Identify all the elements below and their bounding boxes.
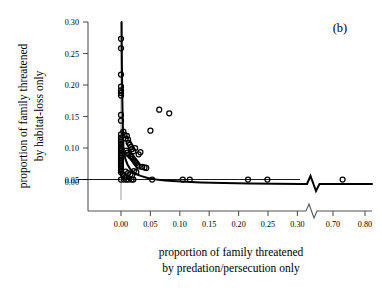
data-point — [157, 107, 162, 112]
y-ticklabel-4: 0.20 — [65, 81, 79, 90]
panel-label: (b) — [333, 21, 348, 35]
x-axis-ticklabels: 0.00 0.05 0.10 0.15 0.20 0.25 0.30 0.70 … — [114, 220, 372, 229]
plot-axes — [88, 22, 372, 218]
y-ticklabel-2: 0.10 — [65, 144, 79, 153]
y-ticklabel-5: 0.25 — [65, 50, 79, 59]
x-ticklabel-2: 0.10 — [173, 220, 187, 229]
y-ticklabel-6: 0.30 — [65, 18, 79, 27]
x-axis-title-line2: by predation/persecution only — [162, 262, 300, 275]
x-axis-title: proportion of family threatened by preda… — [159, 246, 304, 275]
x-axis-break-zigzag — [300, 204, 323, 218]
x-axis-ticks — [121, 211, 365, 216]
y-axis-title-line1: proportion of family threatened — [17, 43, 30, 188]
x-ticklabel-0: 0.00 — [114, 220, 128, 229]
x-ticklabel-3: 0.15 — [202, 220, 216, 229]
x-axis-title-line1: proportion of family threatened — [159, 246, 304, 259]
fit-curve-left — [122, 22, 300, 184]
y-ticklabel-0: 0.00 — [65, 178, 79, 187]
x-ticklabel-5: 0.25 — [261, 220, 275, 229]
y-axis-title-line2: by habitat-loss only — [33, 70, 46, 161]
y-axis-ticks — [83, 22, 88, 181]
fit-curve-break-zigzag — [300, 176, 326, 191]
scatter-plot-svg: 0.30 0.25 0.20 0.15 0.10 0.05 0.00 0.00 … — [0, 0, 382, 288]
figure-panel-b: 0.30 0.25 0.20 0.15 0.10 0.05 0.00 0.00 … — [0, 0, 382, 288]
zero-reference-lines — [78, 22, 300, 200]
x-ticklabel-6: 0.30 — [290, 220, 304, 229]
x-ticklabel-1: 0.05 — [143, 220, 157, 229]
data-point — [167, 111, 172, 116]
data-points-layer — [119, 36, 346, 182]
y-ticklabel-3: 0.15 — [65, 113, 79, 122]
x-ticklabel-8: 0.80 — [358, 220, 372, 229]
y-axis-title: proportion of family threatened by habit… — [17, 43, 46, 188]
data-point — [148, 128, 153, 133]
y-axis-ticklabels: 0.30 0.25 0.20 0.15 0.10 0.05 0.00 — [65, 18, 79, 187]
x-ticklabel-4: 0.20 — [231, 220, 245, 229]
fitted-curve-group — [122, 22, 372, 191]
data-point — [340, 177, 345, 182]
x-ticklabel-7: 0.70 — [326, 220, 340, 229]
